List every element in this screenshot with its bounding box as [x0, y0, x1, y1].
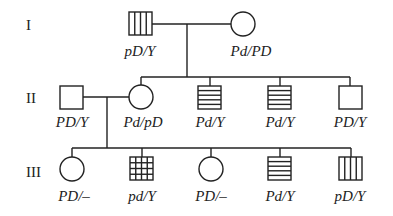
individual-iii-2-male-affected-grid — [130, 157, 153, 180]
individual-i-1-male-affected-vertical — [129, 12, 152, 35]
individual-iii-4-male-affected-horizontal — [268, 157, 291, 180]
individual-ii-3-male-affected-horizontal — [198, 86, 221, 109]
genotype-ii-5: PD/Y — [333, 114, 368, 130]
genotype-ii-3: Pd/Y — [194, 114, 226, 130]
genotype-ii-4: Pd/Y — [264, 114, 296, 130]
genotype-iii-1: PD/– — [57, 188, 90, 204]
individual-iii-1-female — [60, 157, 84, 181]
individual-i-2-female — [231, 12, 255, 36]
individual-ii-5-male — [339, 86, 362, 109]
genotype-iii-2: pd/Y — [127, 188, 157, 204]
generation-label-i: I — [26, 17, 31, 33]
individual-iii-3-female — [199, 157, 223, 181]
individual-ii-1-male — [60, 86, 83, 109]
individual-iii-5-male-affected-vertical — [339, 157, 362, 180]
genotype-ii-2: Pd/pD — [122, 114, 162, 130]
generation-label-iii: III — [26, 164, 41, 180]
genotype-i-1: pD/Y — [124, 43, 158, 59]
generation-label-ii: II — [26, 90, 36, 106]
genotype-i-2: Pd/PD — [230, 43, 272, 59]
genotype-ii-1: PD/Y — [55, 114, 90, 130]
genotype-iii-5: pD/Y — [334, 188, 368, 204]
individual-ii-4-male-affected-horizontal — [268, 86, 291, 109]
genotype-iii-3: PD/– — [194, 188, 227, 204]
pedigree-chart: I II III pD/Y Pd/PD PD/Y Pd/pD Pd/Y — [0, 0, 393, 216]
individual-ii-2-female — [129, 85, 153, 109]
genotype-iii-4: Pd/Y — [264, 188, 296, 204]
